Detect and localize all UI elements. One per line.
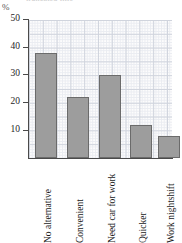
x-axis-label-work-nightshift: Work nightshift — [165, 160, 177, 243]
y-axis-tick-label-40: 40 — [11, 41, 24, 52]
x-axis-line — [28, 158, 173, 159]
bar-convenient — [67, 97, 89, 158]
bar-quicker — [130, 125, 152, 158]
bar-work-nightshift — [158, 136, 180, 158]
x-axis-label-convenient: Convenient — [74, 160, 86, 243]
bar-chart: truncated title % 50 40 30 20 10 No alte… — [0, 0, 182, 243]
x-axis-label-no-alternative: No alternative — [42, 160, 54, 243]
bar-need-car-for-work — [99, 75, 121, 158]
bar-no-alternative — [35, 53, 57, 158]
y-axis-tick-label-20: 20 — [11, 96, 24, 107]
bar-series — [29, 20, 172, 158]
x-axis-category-labels: No alternative Convenient Need car for w… — [29, 160, 172, 243]
x-axis-label-need-car-for-work: Need car for work — [106, 160, 118, 243]
x-axis-label-quicker: Quicker — [137, 160, 149, 243]
y-axis-tick-label-30: 30 — [11, 68, 24, 79]
y-axis-tick-label-10: 10 — [11, 124, 24, 135]
y-axis-tick-label-50: 50 — [11, 13, 24, 24]
cropped-title-text: truncated title — [26, 0, 146, 3]
y-axis-unit-label: % — [2, 3, 10, 12]
